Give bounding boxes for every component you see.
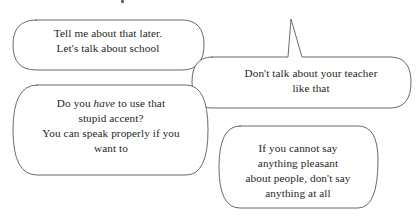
bubble-3-shape [13,85,208,175]
bubble-2-shape [192,19,411,108]
bubble-4-shape [219,126,378,208]
speech-bubble-scene: Tell me about that later. Let's talk abo… [0,0,420,215]
bubble-outlines [0,0,420,215]
bubble-1-shape [13,20,204,70]
